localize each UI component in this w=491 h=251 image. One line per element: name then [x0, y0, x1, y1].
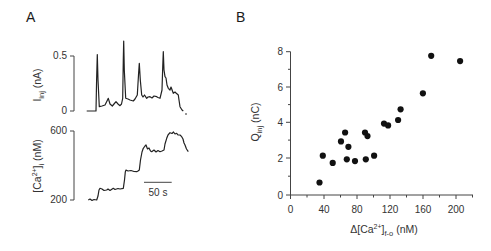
current-trace-panel: 0.5 0 Iinj (nA) — [31, 41, 187, 116]
calcium-y-label: [Ca2+]i (nM) — [31, 139, 46, 192]
data-point — [342, 129, 348, 135]
x-tick-40: 40 — [318, 204, 330, 215]
x-tick-120: 120 — [382, 204, 399, 215]
panel-label-a: A — [26, 9, 36, 25]
calcium-trace — [88, 132, 188, 201]
data-point — [395, 117, 401, 123]
data-point — [316, 179, 322, 185]
x-tick-0: 0 — [288, 204, 294, 215]
scatter-points — [316, 53, 463, 186]
data-point — [338, 138, 344, 144]
data-point — [363, 156, 369, 162]
current-tick-zero: 0 — [61, 105, 67, 116]
panel-label-b: B — [236, 9, 245, 25]
y-major-ticks — [286, 52, 291, 195]
data-point — [344, 156, 350, 162]
data-point — [352, 158, 358, 164]
y-tick-4: 4 — [277, 117, 283, 128]
data-point — [420, 90, 426, 96]
calcium-trace-panel: 600 200 [Ca2+]i (nM) 50 s — [31, 125, 188, 205]
current-y-axis — [70, 56, 74, 111]
scale-bar-label: 50 s — [149, 187, 168, 198]
current-trace — [87, 41, 184, 111]
calcium-tick-low: 200 — [50, 194, 67, 205]
calcium-tick-high: 600 — [50, 125, 67, 136]
data-point — [428, 53, 434, 59]
y-tick-8: 8 — [277, 46, 283, 57]
x-tick-80: 80 — [351, 204, 363, 215]
scatter-x-label: Δ[Ca2+]f-o (nM) — [350, 223, 418, 238]
x-tick-160: 160 — [415, 204, 432, 215]
data-point — [371, 153, 377, 159]
data-point — [364, 133, 370, 139]
y-tick-0: 0 — [277, 190, 283, 201]
data-point — [345, 144, 351, 150]
current-y-label: Iinj (nA) — [31, 68, 46, 101]
y-tick-6: 6 — [277, 82, 283, 93]
x-ticks — [291, 195, 473, 199]
data-point — [330, 160, 336, 166]
trace-dot — [185, 113, 187, 115]
x-tick-200: 200 — [448, 204, 465, 215]
current-tick-high: 0.5 — [53, 50, 67, 61]
figure: A B 0.5 0 Iinj (nA) 600 200 [Ca2+]i (nM)… — [0, 0, 491, 251]
calcium-y-axis — [70, 131, 74, 200]
scatter-y-label: Qinj (nC) — [249, 102, 264, 141]
data-point — [385, 122, 391, 128]
y-tick-2: 2 — [277, 153, 283, 164]
data-point — [320, 153, 326, 159]
scatter-panel: 0 2 4 6 8 0 40 80 120 160 200 Δ[Ca2+]f-o… — [249, 46, 473, 238]
data-point — [457, 58, 463, 64]
data-point — [398, 106, 404, 112]
